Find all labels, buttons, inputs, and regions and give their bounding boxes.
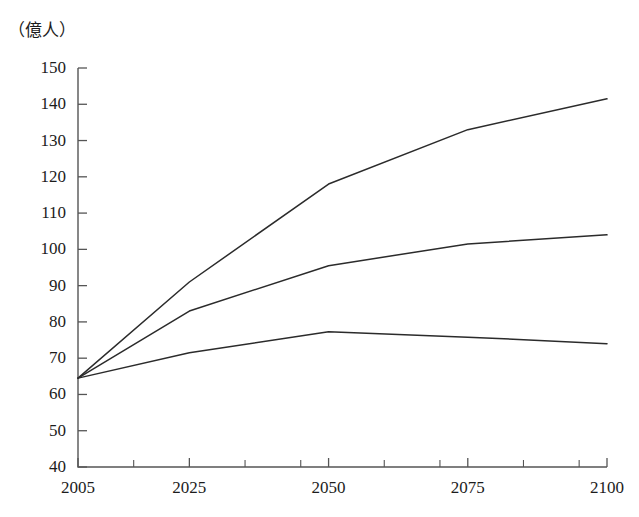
y-axis-tick-label: 100 <box>22 240 66 257</box>
y-axis-tick-label: 50 <box>22 422 66 439</box>
series-line-high <box>78 99 607 378</box>
x-axis-tick-label: 2005 <box>43 479 113 496</box>
y-axis-tick-label: 70 <box>22 349 66 366</box>
series-line-low <box>78 332 607 378</box>
x-axis-tick-label: 2025 <box>154 479 224 496</box>
y-axis-tick-label: 120 <box>22 168 66 185</box>
y-axis-tick-label: 110 <box>22 204 66 221</box>
y-axis-tick-label: 140 <box>22 95 66 112</box>
series-line-medium <box>78 235 607 378</box>
y-axis-tick-label: 130 <box>22 132 66 149</box>
y-axis-tick-label: 90 <box>22 277 66 294</box>
y-axis-tick-label: 60 <box>22 385 66 402</box>
y-axis-tick-label: 40 <box>22 458 66 475</box>
chart-plot-area <box>0 0 639 517</box>
y-axis-tick-label: 80 <box>22 313 66 330</box>
x-axis-tick-label: 2075 <box>433 479 503 496</box>
x-axis-tick-label: 2050 <box>294 479 364 496</box>
x-axis-tick-label: 2100 <box>572 479 639 496</box>
y-axis-tick-label: 150 <box>22 59 66 76</box>
population-projection-chart: （億人） 150140130120110100908070605040 2005… <box>0 0 639 517</box>
axis-frame <box>78 68 607 467</box>
